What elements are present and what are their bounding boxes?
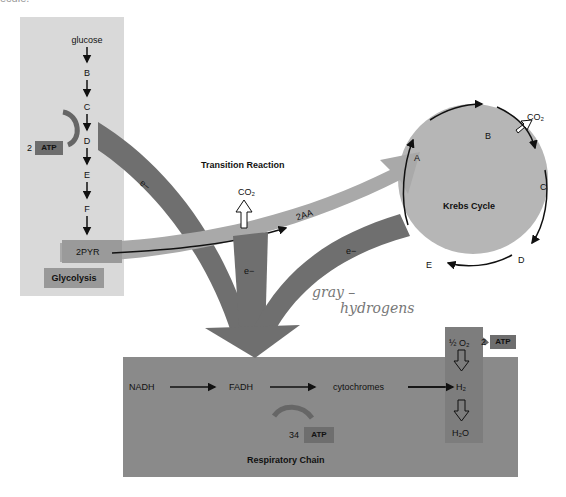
krebs-node-e: E bbox=[426, 260, 432, 270]
handwritten-note-line2: hydrogens bbox=[340, 300, 414, 316]
hydrogen-label: H₂ bbox=[456, 382, 466, 392]
water-label: H₂O bbox=[452, 428, 469, 438]
step-glucose: glucose bbox=[67, 35, 107, 45]
respiratory-chain-title: Respiratory Chain bbox=[247, 455, 325, 465]
carrier-fadh: FADH bbox=[229, 382, 253, 392]
glycolysis-atp-box: ATP bbox=[35, 141, 63, 155]
glycolysis-label: Glycolysis bbox=[44, 268, 104, 288]
step-f: F bbox=[67, 204, 107, 214]
glycolysis-atp-count: 2 bbox=[27, 143, 32, 153]
krebs-atp-count: 2 bbox=[481, 337, 486, 347]
step-d: D bbox=[67, 136, 107, 146]
respiratory-atp-box: ATP bbox=[304, 427, 334, 443]
step-e: E bbox=[67, 170, 107, 180]
pyruvate-label: 2PYR bbox=[76, 247, 100, 257]
step-b: B bbox=[67, 68, 107, 78]
krebs-node-c: C bbox=[540, 182, 547, 192]
carrier-nadh: NADH bbox=[129, 382, 155, 392]
respiratory-atp-count: 34 bbox=[289, 430, 299, 440]
transition-reaction-title: Transition Reaction bbox=[201, 160, 285, 170]
transition-co2-label: CO₂ bbox=[238, 187, 255, 197]
electron-label-krebs: e− bbox=[346, 246, 356, 256]
krebs-atp-box: ATP bbox=[490, 335, 516, 349]
step-c: C bbox=[67, 102, 107, 112]
carrier-cytochromes: cytochromes bbox=[333, 382, 384, 392]
krebs-node-d: D bbox=[518, 255, 525, 265]
electron-label-middle: e− bbox=[244, 266, 254, 276]
krebs-node-a: A bbox=[414, 153, 420, 163]
krebs-cycle-title: Krebs Cycle bbox=[443, 201, 495, 211]
handwritten-note-line1: gray – bbox=[312, 284, 355, 300]
krebs-co2-label: CO₂ bbox=[527, 112, 544, 122]
oxygen-label: ½ O₂ bbox=[449, 338, 470, 348]
krebs-node-b: B bbox=[485, 131, 491, 141]
